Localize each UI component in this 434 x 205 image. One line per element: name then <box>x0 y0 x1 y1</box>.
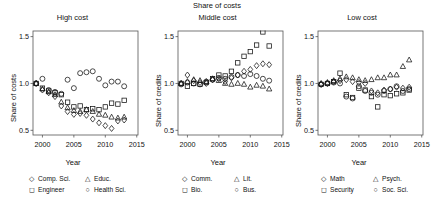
svg-text:1.0: 1.0 <box>19 79 29 88</box>
svg-text:2000: 2000 <box>319 140 335 149</box>
legend: ◇ Comm. △ Lit. ◻ Bio. ○ Bus. <box>179 173 256 195</box>
legend-label: Security <box>329 186 354 193</box>
svg-text:0.5: 0.5 <box>164 126 174 135</box>
panel-high-cost: High cost 0.51.01.52000200520102015 Shar… <box>0 0 145 205</box>
diamond-icon: ◇ <box>179 175 190 182</box>
svg-text:2010: 2010 <box>382 140 398 149</box>
svg-text:2000: 2000 <box>34 140 50 149</box>
legend-item-1: △ Educ. <box>82 175 111 182</box>
legend-label: Lit. <box>242 175 252 182</box>
diamond-icon: ◇ <box>318 175 329 182</box>
triangle-icon: △ <box>82 175 93 182</box>
legend-item-0: ◇ Comm. <box>179 175 231 182</box>
svg-text:1.0: 1.0 <box>304 79 314 88</box>
svg-text:2005: 2005 <box>66 140 82 149</box>
legend: ◇ Math △ Psych. ◻ Security ○ Soc. Sci. <box>318 173 408 195</box>
x-axis-label: Year <box>294 158 424 167</box>
svg-text:2015: 2015 <box>129 140 145 149</box>
legend-label: Bus. <box>242 186 256 193</box>
circle-icon: ○ <box>370 186 381 193</box>
legend-item-1: △ Psych. <box>370 175 402 182</box>
legend-label: Health Sci. <box>93 186 126 193</box>
svg-text:1.5: 1.5 <box>164 32 174 41</box>
svg-text:1.5: 1.5 <box>19 32 29 41</box>
circle-icon: ○ <box>231 186 242 193</box>
svg-text:2010: 2010 <box>97 140 113 149</box>
legend-row: ◇ Comp. Sci. △ Educ. <box>26 173 126 184</box>
panel-low-cost: Low cost 0.51.01.52000200520102015 Share… <box>290 0 434 205</box>
svg-text:0.5: 0.5 <box>304 126 314 135</box>
y-axis-label: Share of costs <box>9 74 18 122</box>
legend-item-0: ◇ Math <box>318 175 370 182</box>
legend-label: Comp. Sci. <box>37 175 70 182</box>
svg-text:2005: 2005 <box>211 140 227 149</box>
legend-item-3: ○ Health Sci. <box>82 186 126 193</box>
square-icon: ◻ <box>26 186 37 193</box>
scatter-plot: 0.51.01.52000200520102015 <box>290 0 434 160</box>
legend-item-2: ◻ Engineer <box>26 186 82 193</box>
svg-text:2015: 2015 <box>414 140 430 149</box>
legend-label: Engineer <box>37 186 64 193</box>
legend-label: Math <box>329 175 345 182</box>
legend-row: ◻ Security ○ Soc. Sci. <box>318 184 408 195</box>
legend-item-3: ○ Bus. <box>231 186 256 193</box>
legend-item-2: ◻ Security <box>318 186 370 193</box>
legend-item-2: ◻ Bio. <box>179 186 231 193</box>
legend-item-0: ◇ Comp. Sci. <box>26 175 82 182</box>
plot-area: 0.51.01.52000200520102015 <box>145 0 290 160</box>
svg-text:0.5: 0.5 <box>19 126 29 135</box>
legend-item-1: △ Lit. <box>231 175 252 182</box>
legend-label: Bio. <box>190 186 202 193</box>
y-axis-label: Share of credits <box>154 74 163 127</box>
svg-text:1.0: 1.0 <box>164 79 174 88</box>
svg-text:2000: 2000 <box>179 140 195 149</box>
x-axis-label: Year <box>8 158 138 167</box>
y-axis-label: Share of credits <box>294 74 303 127</box>
square-icon: ◻ <box>318 186 329 193</box>
svg-text:2010: 2010 <box>242 140 258 149</box>
panel-middle-cost: Middle cost 0.51.01.52000200520102015 Sh… <box>145 0 290 205</box>
circle-icon: ○ <box>82 186 93 193</box>
legend-row: ◻ Engineer ○ Health Sci. <box>26 184 126 195</box>
plot-area: 0.51.01.52000200520102015 <box>290 0 434 160</box>
x-axis-label: Year <box>153 158 283 167</box>
legend-label: Soc. Sci. <box>381 186 408 193</box>
legend-label: Educ. <box>93 175 111 182</box>
figure-root: Share of costs High cost 0.51.01.5200020… <box>0 0 434 205</box>
plot-area: 0.51.01.52000200520102015 <box>0 0 145 160</box>
svg-text:2005: 2005 <box>351 140 367 149</box>
square-icon: ◻ <box>179 186 190 193</box>
triangle-icon: △ <box>231 175 242 182</box>
scatter-plot: 0.51.01.52000200520102015 <box>145 0 290 160</box>
svg-text:2015: 2015 <box>274 140 290 149</box>
diamond-icon: ◇ <box>26 175 37 182</box>
legend: ◇ Comp. Sci. △ Educ. ◻ Engineer ○ Health… <box>26 173 126 195</box>
legend-label: Comm. <box>190 175 212 182</box>
legend-row: ◻ Bio. ○ Bus. <box>179 184 256 195</box>
scatter-plot: 0.51.01.52000200520102015 <box>0 0 145 160</box>
legend-row: ◇ Math △ Psych. <box>318 173 408 184</box>
legend-item-3: ○ Soc. Sci. <box>370 186 408 193</box>
legend-label: Psych. <box>381 175 402 182</box>
svg-text:1.5: 1.5 <box>304 32 314 41</box>
triangle-icon: △ <box>370 175 381 182</box>
legend-row: ◇ Comm. △ Lit. <box>179 173 256 184</box>
